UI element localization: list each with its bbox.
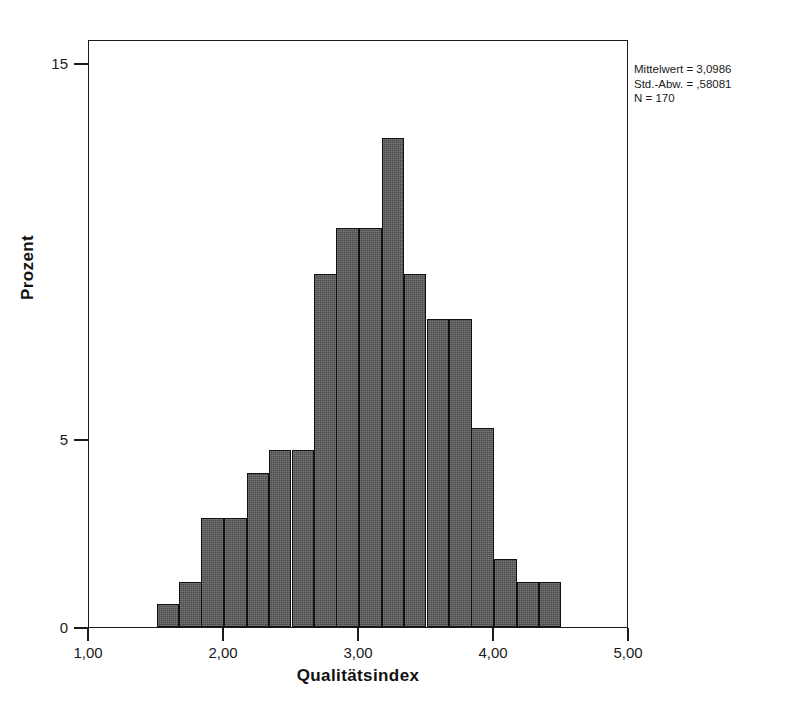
bars-layer [89,41,627,627]
histogram-bar [404,274,427,627]
x-axis-tick [627,628,629,641]
x-axis-tick [87,628,89,641]
histogram-bar [427,319,450,627]
histogram-bar [539,582,562,627]
x-axis-tick [222,628,224,641]
histogram-bar [157,604,180,627]
x-axis-tick [357,628,359,641]
x-axis-tick-label: 4,00 [478,645,507,660]
histogram-bar [359,228,382,627]
histogram-bar [247,473,270,627]
y-axis-tick-label: 5 [60,432,68,447]
histogram-bar [314,274,337,627]
y-axis-tick [74,439,88,441]
histogram-bar [471,428,494,627]
x-axis-tick-label: 2,00 [208,645,237,660]
histogram-bar [224,518,247,627]
mean-label: Mittelwert = 3,0986 [634,62,732,77]
std-dev-label: Std.-Abw. = ,58081 [634,77,732,92]
x-axis-tick-label: 1,00 [73,645,102,660]
histogram-bar [269,450,292,627]
y-axis-tick [74,63,88,65]
y-axis-tick-label: 15 [51,56,68,71]
x-axis-tick [492,628,494,641]
histogram-bar [449,319,472,627]
statistics-annotation: Mittelwert = 3,0986 Std.-Abw. = ,58081 N… [634,62,732,106]
histogram-bar [336,228,359,627]
histogram-figure: Prozent 0515 1,002,003,004,005,00 Mittel… [0,0,786,714]
histogram-bar [292,450,315,627]
y-axis-tick-label: 0 [60,620,68,635]
histogram-bar [517,582,540,627]
y-axis-tick [74,627,88,629]
y-axis-title: Prozent [18,260,38,300]
x-axis-tick-label: 3,00 [343,645,372,660]
histogram-bar [494,559,517,627]
plot-area [88,40,628,628]
histogram-bar [382,138,405,627]
x-axis-title: Qualitätsindex [0,666,716,686]
histogram-bar [201,518,224,627]
sample-size-label: N = 170 [634,91,732,106]
x-axis-tick-label: 5,00 [613,645,642,660]
histogram-bar [179,582,202,627]
